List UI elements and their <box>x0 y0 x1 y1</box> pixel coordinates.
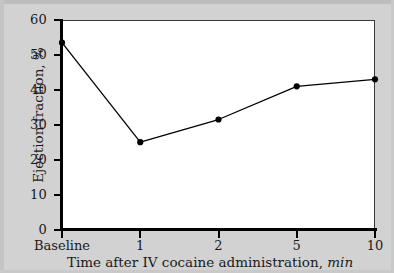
data-point <box>215 116 221 122</box>
data-point <box>59 40 65 46</box>
chart-figure: 0102030405060 Baseline12510 Ejection fra… <box>0 0 394 273</box>
data-point <box>372 76 378 82</box>
series-markers <box>59 40 378 146</box>
data-series-layer <box>0 0 394 273</box>
data-point <box>137 139 143 145</box>
data-point <box>294 83 300 89</box>
series-line <box>62 43 375 143</box>
